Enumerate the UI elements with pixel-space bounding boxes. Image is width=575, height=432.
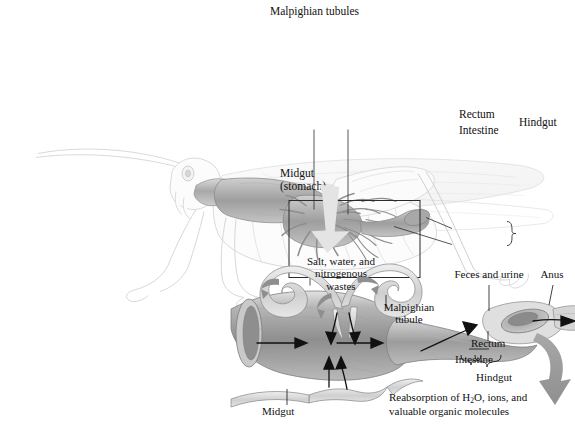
label-rectum-bottom: Rectum bbox=[471, 337, 505, 349]
bottom-panel-gut-detail: Salt, water, and nitrogenous wastes Fece… bbox=[237, 247, 575, 432]
reabsorption-line1: Reabsorption of H2O, ions, and bbox=[389, 391, 527, 403]
label-malpighian-tubule-bottom: Malpighian tubule bbox=[364, 301, 454, 326]
label-salt-water-wastes: Salt, water, and nitrogenous wastes bbox=[285, 255, 397, 292]
salt-water-line3: wastes bbox=[326, 280, 355, 292]
salt-water-line2: nitrogenous bbox=[315, 267, 367, 279]
reabsorption-line1-b: O, ions, and bbox=[474, 391, 527, 403]
label-reabsorption: Reabsorption of H2O, ions, and valuable … bbox=[389, 391, 527, 419]
salt-water-line1: Salt, water, and bbox=[307, 255, 375, 267]
zoom-connector-arrow bbox=[309, 184, 354, 255]
malpighian-line2: tubule bbox=[395, 313, 423, 325]
label-midgut-bottom: Midgut bbox=[262, 405, 294, 417]
label-anus: Anus bbox=[530, 268, 574, 280]
reabsorption-line1-a: Reabsorption of H bbox=[389, 391, 470, 403]
malpighian-line1: Malpighian bbox=[384, 301, 435, 313]
label-hindgut-bottom: Hindgut bbox=[476, 371, 512, 383]
label-intestine-bottom: Intestine bbox=[455, 353, 493, 365]
reabsorption-line2: valuable organic molecules bbox=[389, 405, 509, 417]
reabsorption-curved-arrow bbox=[533, 333, 571, 405]
